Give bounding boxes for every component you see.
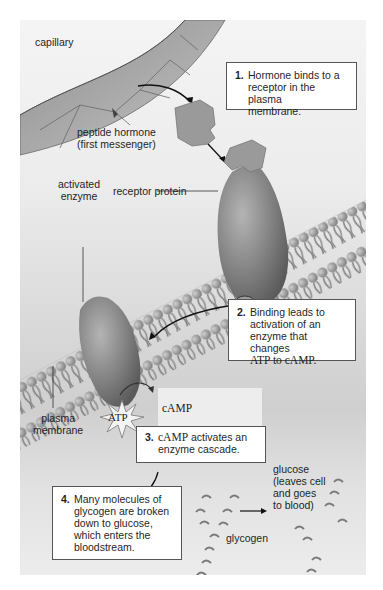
capillary-label: capillary [35, 36, 74, 48]
peptide-hormone-label: peptide hormone (first messenger) [77, 126, 156, 150]
glycogen-label: glycogen [226, 532, 268, 544]
step-3-text-line2: enzyme cascade. [158, 443, 240, 455]
step-2-box: 2. Binding leads to activation of an enz… [228, 299, 356, 361]
step-1-box: 1. Hormone binds to a receptor in the pl… [226, 62, 357, 110]
step-2-text-serif: ATP to cAMP. [250, 354, 316, 366]
receptor-protein-label: receptor protein [113, 185, 187, 197]
diagram-panel: capillary peptide hormone (first messeng… [20, 20, 366, 575]
plasma-membrane-label: plasma membrane [33, 412, 83, 436]
glucose-label: glucose (leaves cell and goes to blood) [273, 463, 326, 511]
step-1-text: Hormone binds to a receptor in the plasm… [248, 69, 350, 117]
step-1-number: 1. [235, 69, 248, 117]
camp-label-line1: cAMP [162, 402, 258, 414]
step-3-text: activates an [188, 431, 247, 443]
step-3-text-serif: cAMP [158, 431, 188, 443]
step-2-text: Binding leads to activation of an enzyme… [250, 306, 349, 354]
step-3-box: 3. cAMP activates an enzyme cascade. [136, 426, 266, 463]
step-3-number: 3. [145, 431, 158, 455]
atp-label: ATP [108, 411, 128, 423]
step-4-number: 4. [61, 493, 74, 553]
activated-enzyme-label: activated enzyme [58, 178, 100, 202]
step-2-number: 2. [237, 306, 250, 366]
step-4-text: Many molecules of glycogen are broken do… [74, 493, 169, 553]
step-4-box: 4. Many molecules of glycogen are broken… [52, 486, 182, 560]
